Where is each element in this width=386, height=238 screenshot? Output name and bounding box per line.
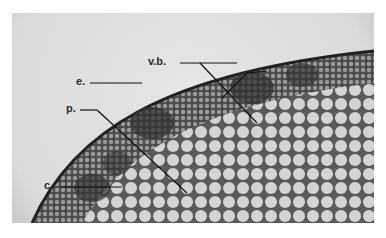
label-pith: p. [66,102,76,114]
vascular-bundle [103,151,131,175]
vascular-bundle [286,63,318,87]
micrograph-frame: v.b. e. p. c. [12,13,374,223]
vascular-bundle [230,72,274,104]
label-vascular-bundle: v.b. [148,55,166,67]
vascular-bundle [130,107,174,139]
stem-cross-section [12,13,374,223]
label-epidermis: e. [76,75,85,87]
label-cortex: c. [44,179,53,191]
vascular-bundle [74,174,110,202]
